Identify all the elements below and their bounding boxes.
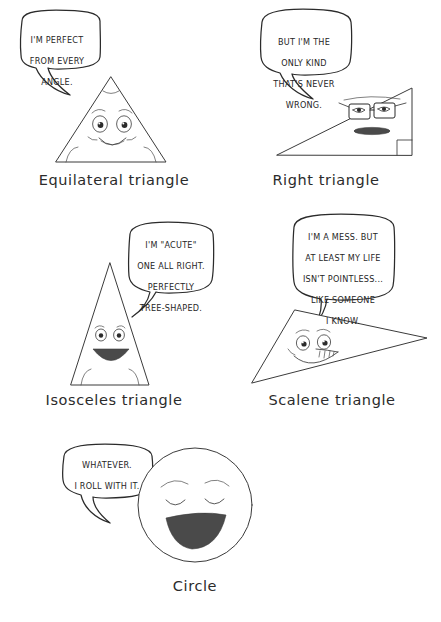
- eye-glint-right: [122, 122, 124, 124]
- mouth-flat: [354, 127, 390, 134]
- pupil-left: [99, 333, 103, 337]
- pupil-right: [382, 107, 386, 111]
- speech-text-isosceles: I'M "ACUTE" ONE ALL RIGHT. PERFECTLY TRE…: [128, 230, 214, 324]
- pupil-left: [357, 108, 361, 112]
- caption-right-triangle: Right triangle: [226, 172, 426, 188]
- speech-text-scalene: I'M A MESS. BUT AT LEAST MY LIFE ISN'T P…: [292, 222, 394, 336]
- eye-glint-left: [302, 342, 304, 344]
- eye-glint-right: [323, 341, 325, 343]
- speech-text-circle: WHATEVER. I ROLL WITH IT.: [62, 450, 152, 502]
- caption-isosceles-triangle: Isosceles triangle: [0, 392, 228, 408]
- speech-text-right-triangle: BUT I'M THE ONLY KIND THAT'S NEVER WRONG…: [262, 27, 346, 121]
- pupil-right: [117, 333, 121, 337]
- comic-sheet: I'M PERFECT FROM EVERY ANGLE. BUT I'M TH…: [0, 0, 441, 622]
- caption-scalene-triangle: Scalene triangle: [226, 392, 438, 408]
- eye-glint-left: [98, 122, 100, 124]
- caption-circle: Circle: [95, 578, 295, 594]
- caption-equilateral-triangle: Equilateral triangle: [0, 172, 228, 188]
- speech-text-equilateral: I'M PERFECT FROM EVERY ANGLE.: [14, 25, 100, 98]
